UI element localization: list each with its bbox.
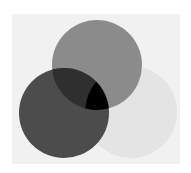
venn-svg — [0, 0, 191, 173]
venn-diagram — [0, 0, 191, 173]
